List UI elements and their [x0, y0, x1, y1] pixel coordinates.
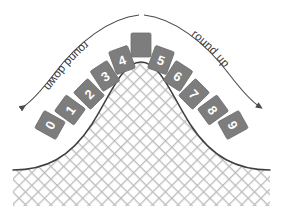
round-up-label: round up: [189, 27, 232, 69]
digit-box-background: [131, 33, 151, 57]
diagram-canvas: round down round up 01234 56789: [0, 0, 283, 219]
digit-box-center-blank: [131, 33, 151, 57]
rounding-diagram: round down round up 01234 56789: [0, 0, 283, 219]
center-digit-box: [131, 33, 151, 57]
